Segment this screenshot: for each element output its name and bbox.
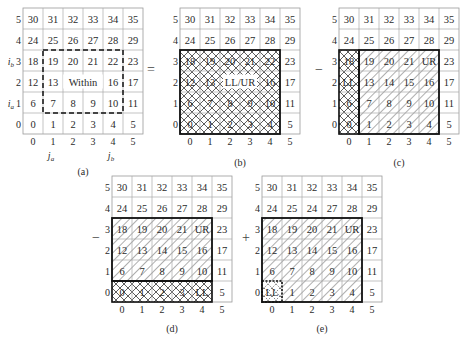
column-label: 4: [200, 304, 205, 315]
cell-value: 6: [187, 98, 192, 109]
row-label: 0: [255, 287, 260, 298]
cell-value: 8: [70, 98, 75, 109]
panel-a: 3031323334352425262728291819202122231213…: [8, 8, 143, 178]
cell-value: 33: [177, 182, 188, 193]
cell-value: 7: [207, 98, 212, 109]
operator-minus: −: [92, 230, 100, 245]
cell-value: 20: [157, 224, 168, 235]
cell-value: 4: [426, 119, 432, 130]
cell-value: 21: [88, 56, 99, 67]
operator-equals: =: [147, 62, 155, 77]
row-index-subscript: a: [11, 103, 15, 111]
cell-value: 15: [404, 77, 415, 88]
cell-value: 16: [347, 245, 358, 256]
row-label: 0: [173, 119, 178, 130]
row-label: 2: [16, 77, 21, 88]
cell-value: 1: [207, 119, 212, 130]
panel-caption: (c): [393, 157, 404, 169]
row-label: 1: [255, 266, 260, 277]
cell-value: 25: [205, 35, 216, 46]
cell-value: 18: [185, 56, 196, 67]
row-label: 5: [16, 14, 21, 25]
cell-value: 3: [329, 287, 334, 298]
cell-value: 2: [159, 287, 164, 298]
cell-value: 31: [287, 182, 298, 193]
row-label: 1: [16, 98, 21, 109]
cell-value: 9: [406, 98, 411, 109]
column-index-subscript: a: [51, 155, 55, 163]
cell-value: LL: [196, 287, 209, 298]
cell-value: 4: [349, 287, 355, 298]
row-label: 3: [332, 56, 337, 67]
cell-value: 28: [265, 35, 276, 46]
cell-value: 24: [267, 203, 278, 214]
column-label: 2: [228, 136, 233, 147]
cell-value: 17: [367, 245, 378, 256]
column-label: 3: [330, 304, 335, 315]
cell-value: 32: [384, 14, 395, 25]
cell-value: 12: [28, 77, 39, 88]
cell-value: 29: [128, 35, 139, 46]
cell-value: 16: [197, 245, 208, 256]
cell-value: 23: [217, 224, 228, 235]
cell-value: 17: [217, 245, 228, 256]
cell-value: UR: [345, 224, 360, 235]
cell-value: 10: [108, 98, 119, 109]
row-label: 1: [173, 98, 178, 109]
cell-value: 23: [444, 56, 455, 67]
cell-value: 19: [287, 224, 298, 235]
cell-value: 21: [404, 56, 415, 67]
panel-c: 30313233343524252627282918192021UR23LL13…: [332, 8, 459, 169]
panel-e: 30313233343524252427282918192021UR231213…: [255, 176, 382, 335]
row-label: 3: [105, 224, 110, 235]
cell-value: 12: [117, 245, 128, 256]
cell-value: 4: [267, 119, 273, 130]
column-label: 5: [131, 136, 136, 147]
grid-decomposition-figure: 3031323334352425262728291819202122231213…: [0, 0, 465, 342]
row-label: 4: [16, 35, 21, 46]
panel-b: 3031323334352425262728291819202122231213…: [173, 8, 300, 169]
cell-value: 10: [265, 98, 276, 109]
cell-value: 16: [424, 77, 435, 88]
column-label: 2: [71, 136, 76, 147]
cell-value: 13: [287, 245, 298, 256]
cell-value: 2: [227, 119, 232, 130]
cell-value: 24: [344, 35, 355, 46]
cell-value: 25: [48, 35, 59, 46]
cell-value: 5: [369, 287, 374, 298]
cell-value: 18: [267, 224, 278, 235]
cell-value: 19: [137, 224, 148, 235]
cell-value: 30: [267, 182, 278, 193]
cell-value: 14: [307, 245, 318, 256]
column-label: 3: [407, 136, 412, 147]
cell-value: 6: [119, 266, 124, 277]
cell-value: 11: [128, 98, 138, 109]
cell-value: 7: [366, 98, 371, 109]
column-label: 4: [111, 136, 116, 147]
cell-value: UR: [195, 224, 210, 235]
cell-value: 35: [285, 14, 296, 25]
cell-value: 27: [177, 203, 188, 214]
column-index-symbol: jb: [106, 150, 115, 163]
column-label: 4: [268, 136, 273, 147]
cell-value: 29: [444, 35, 455, 46]
column-index-symbol: ja: [46, 150, 55, 163]
cell-value: 14: [157, 245, 168, 256]
cell-value: 31: [137, 182, 148, 193]
cell-value: 31: [364, 14, 375, 25]
cell-value: 31: [205, 14, 216, 25]
cell-value: 16: [265, 77, 276, 88]
cell-value: 14: [384, 77, 395, 88]
cell-value: 1: [139, 287, 144, 298]
cell-value: 5: [446, 119, 451, 130]
cell-value: 0: [346, 119, 351, 130]
row-index-symbol: ia: [8, 98, 15, 111]
cell-value: 11: [444, 98, 454, 109]
row-label: 5: [105, 182, 110, 193]
cell-value: 30: [344, 14, 355, 25]
cell-value: 24: [28, 35, 39, 46]
row-label: 2: [255, 245, 260, 256]
cell-value: 11: [367, 266, 377, 277]
cell-value: 21: [177, 224, 188, 235]
cell-value: 25: [364, 35, 375, 46]
